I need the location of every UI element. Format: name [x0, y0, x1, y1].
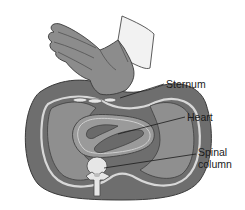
spinal-column-label: Spinal column	[198, 146, 244, 170]
spinal-label-line1: Spinal	[198, 146, 244, 158]
cross-section-illustration	[0, 0, 245, 210]
cpr-cross-section-diagram: Sternum Heart Spinal column	[0, 0, 245, 210]
spinal-label-line2: column	[198, 158, 244, 170]
heart-label: Heart	[187, 111, 213, 123]
sternum-label: Sternum	[166, 78, 206, 90]
